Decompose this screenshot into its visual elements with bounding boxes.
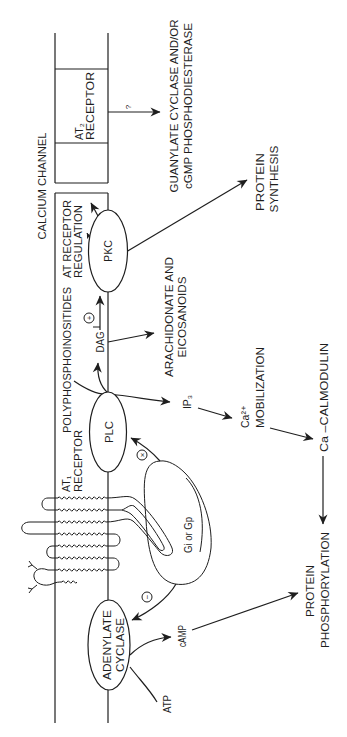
- pkc-label: PKC: [102, 240, 114, 262]
- ca-mobilization-label-line1: Ca²⁺: [239, 405, 251, 428]
- diagram-canvas: + × − CALCIUM CHANNEL AT₂ RECEPTOR ? GUA…: [0, 0, 347, 737]
- regulation-label-line2: REGULATION: [72, 205, 84, 278]
- plc-label: PLC: [103, 421, 115, 443]
- protein-phosphorylation-label-line2: PHOSPHORYLATION: [319, 532, 331, 648]
- camp-label: cAMP: [176, 625, 188, 647]
- arachidonate-label-line1: ARACHIDONATE AND: [163, 257, 175, 377]
- ca-calmodulin-label: Ca –CALMODULIN: [318, 343, 330, 452]
- protein-synthesis-label-line1: PROTEIN: [254, 153, 266, 211]
- angiotensin-signaling-diagram: + × − CALCIUM CHANNEL AT₂ RECEPTOR ? GUA…: [0, 0, 347, 737]
- atp-label: ATP: [161, 695, 173, 713]
- stimulate-symbol: +: [85, 315, 94, 320]
- ca-mobilization-label-line2: MOBILIZATION: [254, 347, 266, 428]
- dag-label: DAG: [94, 332, 106, 353]
- protein-synthesis-label-line2: SYNTHESIS: [268, 146, 280, 213]
- at1-receptor-label-line1: AT₁: [60, 475, 72, 492]
- g-protein-label: Gi or Gp: [182, 517, 194, 553]
- activate-symbol: ×: [138, 452, 147, 457]
- calcium-channel-label: CALCIUM CHANNEL: [36, 132, 48, 239]
- guanylate-label-line1: GUANYLATE CYCLASE AND/OR: [168, 19, 180, 192]
- arachidonate-label-line2: EICOSANOIDS: [176, 277, 188, 358]
- adenylate-cyclase-label-line1: ADENYLATE: [101, 610, 113, 680]
- inhibit-symbol: −: [143, 594, 152, 599]
- guanylate-label-line2: cGMP PHOSPHODIESTERASE: [182, 23, 194, 189]
- stimulate-icon: +: [84, 313, 94, 323]
- at2-receptor-label-line2: RECEPTOR: [84, 72, 96, 140]
- polyphosphoinositides-label: POLYPHOSPHOINOSITIDES: [61, 287, 73, 433]
- unknown-mechanism-label: ?: [124, 104, 133, 109]
- activate-icon: ×: [137, 450, 147, 460]
- adenylate-cyclase-label-line2: CYCLASE: [114, 618, 126, 672]
- ip3-label: IP₃: [181, 395, 193, 409]
- at1-receptor-label-line2: RECEPTOR: [72, 430, 84, 492]
- inhibit-icon: −: [142, 592, 152, 602]
- protein-phosphorylation-label-line1: PROTEIN: [304, 565, 316, 617]
